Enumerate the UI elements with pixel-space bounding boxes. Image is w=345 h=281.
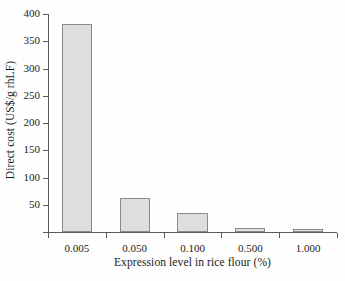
bar xyxy=(62,24,92,232)
x-tick xyxy=(221,233,222,238)
y-tick: 300 xyxy=(43,69,48,70)
x-tick-label: 1.000 xyxy=(296,242,321,255)
x-tick xyxy=(106,233,107,238)
y-tick-label: 400 xyxy=(24,7,41,20)
y-tick: 350 xyxy=(43,41,48,42)
y-tick-label: 250 xyxy=(24,89,41,102)
y-tick: 200 xyxy=(43,123,48,124)
x-axis-title: Expression level in rice flour (%) xyxy=(48,255,337,269)
x-tick xyxy=(279,233,280,238)
bar xyxy=(120,198,150,232)
y-tick: 100 xyxy=(43,178,48,179)
plot-area: 50100150200250300350400 0.0050.0500.1000… xyxy=(48,14,337,232)
x-tick-label: 0.050 xyxy=(122,242,147,255)
x-tick xyxy=(164,233,165,238)
x-axis-line xyxy=(48,232,337,233)
y-tick-label: 150 xyxy=(24,143,41,156)
chart-figure: Direct cost (US$/g rhLF) 501001502002503… xyxy=(0,0,345,281)
y-tick-label: 300 xyxy=(24,62,41,75)
y-tick: 250 xyxy=(43,96,48,97)
x-tick xyxy=(337,233,338,238)
x-tick-label: 0.005 xyxy=(65,242,90,255)
y-axis-title: Direct cost (US$/g rhLF) xyxy=(2,4,18,236)
bar xyxy=(235,228,265,232)
y-tick: 150 xyxy=(43,150,48,151)
y-tick: 400 xyxy=(43,14,48,15)
y-tick: 50 xyxy=(43,205,48,206)
y-tick-label: 350 xyxy=(24,34,41,47)
y-axis-line xyxy=(48,14,49,233)
bar xyxy=(293,229,323,232)
x-tick-label: 0.500 xyxy=(238,242,263,255)
y-tick-label: 50 xyxy=(29,198,40,211)
x-tick xyxy=(48,233,49,238)
y-tick-label: 100 xyxy=(24,171,41,184)
bar xyxy=(177,213,207,232)
x-tick-label: 0.100 xyxy=(180,242,205,255)
y-tick-label: 200 xyxy=(24,116,41,129)
